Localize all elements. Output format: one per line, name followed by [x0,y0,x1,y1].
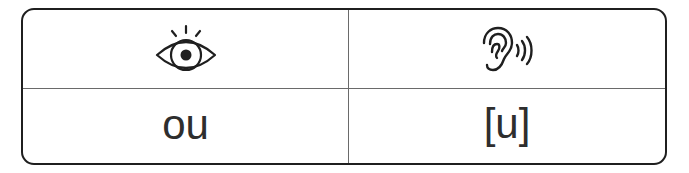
header-cell-hear [349,10,665,89]
ear-icon [478,25,536,73]
spelling-text: ou [162,104,209,146]
spelling-sound-table: ou [u] [21,8,667,165]
phonetic-text: [u] [484,103,531,145]
sound-cell: [u] [349,89,665,163]
spelling-cell: ou [23,89,349,163]
eye-icon [154,24,218,74]
header-cell-see [23,10,349,89]
